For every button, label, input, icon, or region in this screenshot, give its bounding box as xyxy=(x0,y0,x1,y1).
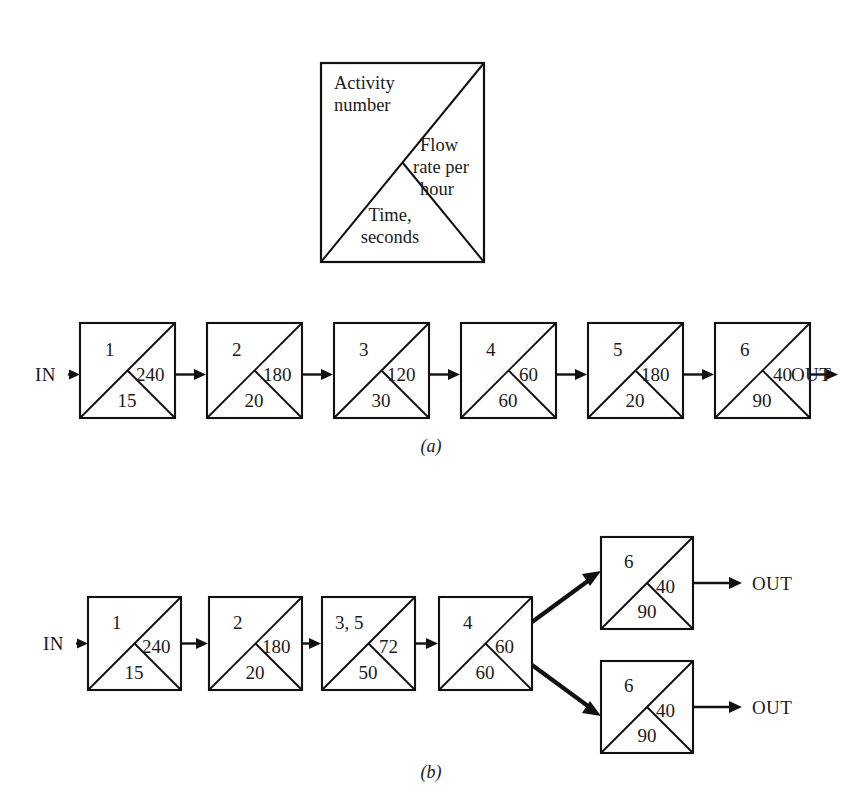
time-seconds: 60 xyxy=(476,662,495,683)
time-seconds: 90 xyxy=(753,390,772,411)
connector-a-4-5 xyxy=(556,369,587,380)
legend-flow-line2: rate per xyxy=(413,157,469,177)
activity-number: 4 xyxy=(486,339,496,360)
activity-number: 5 xyxy=(613,339,623,360)
time-seconds: 60 xyxy=(499,390,518,411)
activity-number: 2 xyxy=(233,612,243,633)
flow-rate: 60 xyxy=(519,364,538,385)
diagram-a: IN 1 240 15 2 180 20 xyxy=(35,323,838,457)
time-seconds: 15 xyxy=(118,390,137,411)
activity-number: 3, 5 xyxy=(335,612,364,633)
legend-flow-line3: hour xyxy=(420,179,454,199)
time-seconds: 50 xyxy=(359,662,378,683)
caption-b: (b) xyxy=(421,762,442,783)
activity-number: 2 xyxy=(232,339,242,360)
connector-a-5-6 xyxy=(683,369,714,380)
time-seconds: 15 xyxy=(125,662,144,683)
activity-box-a-5[interactable]: 5 180 20 xyxy=(588,323,683,418)
flow-rate: 180 xyxy=(263,364,292,385)
connector-a-1-2 xyxy=(175,369,206,380)
legend-activity-line2: number xyxy=(334,95,391,115)
activity-number: 6 xyxy=(740,339,750,360)
flow-rate: 60 xyxy=(495,636,514,657)
legend-time-line1: Time, xyxy=(368,205,411,225)
connector-arrowhead xyxy=(575,369,587,380)
connector-b-2-3 xyxy=(302,638,321,649)
flow-rate: 180 xyxy=(641,364,670,385)
diagram-a-in-label: IN xyxy=(35,364,56,385)
connector-arrowhead xyxy=(309,638,321,649)
diagram-a-in-arrowhead xyxy=(69,370,80,380)
activity-box-a-4[interactable]: 4 60 60 xyxy=(461,323,556,418)
diagram-a-out: OUT xyxy=(791,364,838,385)
diagram-b-out-lower: OUT xyxy=(693,697,792,718)
legend-time-line2: seconds xyxy=(361,227,420,247)
time-seconds: 20 xyxy=(626,390,645,411)
branch-connector-lower xyxy=(532,665,601,716)
branch-connector-upper xyxy=(532,571,601,622)
time-seconds: 20 xyxy=(246,662,265,683)
connector-arrowhead xyxy=(426,638,438,649)
branch-line-upper xyxy=(532,578,592,622)
connector-b-3-4 xyxy=(415,638,438,649)
connector-b-1-2 xyxy=(181,638,208,649)
process-flow-figure: Activity number Flow rate per hour Time,… xyxy=(0,0,863,799)
diagram-b-in-arrowhead xyxy=(77,639,88,649)
time-seconds: 30 xyxy=(372,390,391,411)
activity-number: 1 xyxy=(112,612,122,633)
activity-number: 3 xyxy=(359,339,369,360)
connector-arrowhead xyxy=(194,369,206,380)
out-label-upper: OUT xyxy=(752,573,792,594)
diagram-b-out-upper: OUT xyxy=(693,573,792,594)
out-arrowhead-lower xyxy=(729,701,742,713)
time-seconds: 90 xyxy=(638,601,657,622)
flow-rate: 72 xyxy=(379,636,398,657)
legend-flow-line1: Flow xyxy=(420,135,459,155)
activity-box-b-2[interactable]: 2 180 20 xyxy=(209,597,302,690)
activity-box-a-1[interactable]: 1 240 15 xyxy=(80,323,175,418)
activity-box-a-2[interactable]: 2 180 20 xyxy=(207,323,302,418)
legend-key-box: Activity number Flow rate per hour Time,… xyxy=(321,63,484,262)
connector-a-2-3 xyxy=(302,369,333,380)
activity-box-b-1[interactable]: 1 240 15 xyxy=(88,597,181,690)
activity-box-b-branch-lower[interactable]: 6 40 90 xyxy=(601,661,693,753)
flow-rate: 240 xyxy=(142,636,171,657)
diagram-b-in-label: IN xyxy=(43,633,64,654)
flow-rate: 180 xyxy=(262,636,291,657)
connector-arrowhead xyxy=(196,638,208,649)
activity-number: 4 xyxy=(463,612,473,633)
flow-rate: 40 xyxy=(773,364,792,385)
flow-rate: 120 xyxy=(387,364,416,385)
connector-arrowhead xyxy=(702,369,714,380)
flow-rate: 40 xyxy=(656,700,675,721)
activity-box-a-3[interactable]: 3 120 30 xyxy=(334,323,429,418)
activity-box-b-3-5[interactable]: 3, 5 72 50 xyxy=(322,597,415,690)
connector-a-3-4 xyxy=(429,369,460,380)
flow-rate: 240 xyxy=(136,364,165,385)
flow-rate: 40 xyxy=(656,576,675,597)
out-arrowhead-upper xyxy=(729,577,742,589)
caption-a: (a) xyxy=(421,436,442,457)
activity-number: 6 xyxy=(624,675,634,696)
legend-activity-line1: Activity xyxy=(334,73,395,93)
activity-number: 1 xyxy=(105,339,115,360)
connector-arrowhead xyxy=(321,369,333,380)
time-seconds: 90 xyxy=(638,725,657,746)
diagram-b: IN 1 240 15 2 180 20 xyxy=(43,537,792,783)
time-seconds: 20 xyxy=(245,390,264,411)
activity-box-b-branch-upper[interactable]: 6 40 90 xyxy=(601,537,693,629)
out-label-lower: OUT xyxy=(752,697,792,718)
branch-line-lower xyxy=(532,665,592,709)
connector-arrowhead xyxy=(448,369,460,380)
activity-number: 6 xyxy=(624,551,634,572)
diagram-a-out-label: OUT xyxy=(791,364,831,385)
activity-box-b-4[interactable]: 4 60 60 xyxy=(439,597,532,690)
